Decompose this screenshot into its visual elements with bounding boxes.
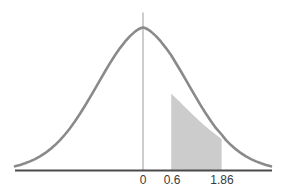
distribution-plot xyxy=(0,0,287,195)
normal-distribution-figure: 0 0.6 1.86 xyxy=(0,0,287,195)
shaded-region-area xyxy=(171,94,221,170)
